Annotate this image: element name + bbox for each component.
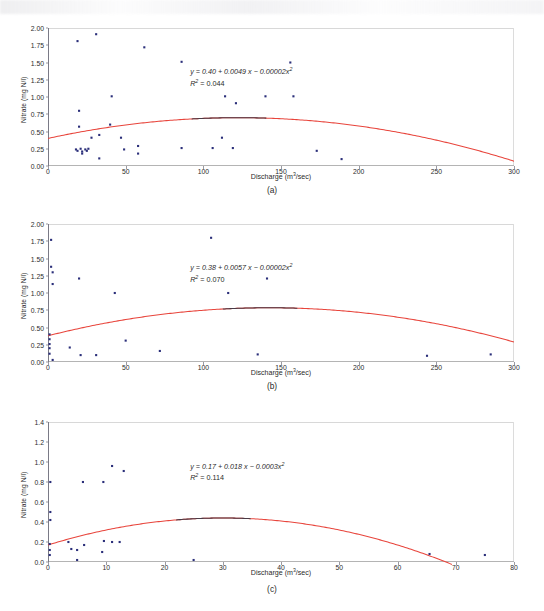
x-axis-label-a: Discharge (m3/sec) [48, 171, 514, 181]
y-tick-mark-c [46, 542, 49, 543]
regression-annotation-a: y = 0.40 + 0.0049 x − 0.00002x2R2 = 0.04… [190, 66, 292, 90]
data-point-c [111, 465, 113, 467]
r-squared-a: R2 = 0.044 [190, 78, 292, 90]
data-point-a [264, 95, 266, 97]
data-point-c [101, 551, 103, 553]
x-tick-mark-a [359, 166, 360, 169]
data-point-c [82, 481, 84, 483]
data-point-a [76, 150, 78, 152]
data-point-c [428, 553, 430, 555]
data-point-b [125, 340, 127, 342]
panel-caption-a: (a) [0, 185, 544, 195]
data-point-c [49, 554, 51, 556]
data-point-c [83, 544, 85, 546]
y-tick-mark-a [46, 114, 49, 115]
data-point-a [341, 158, 343, 160]
regression-annotation-c: y = 0.17 + 0.018 x − 0.0003x2R2 = 0.114 [190, 461, 284, 485]
data-point-a [212, 147, 214, 149]
data-point-a [111, 95, 113, 97]
data-point-c [76, 559, 78, 561]
data-point-b [50, 239, 52, 241]
data-point-c [49, 511, 51, 513]
data-point-c [49, 481, 51, 483]
regression-curve-a [48, 118, 514, 161]
data-point-a [90, 137, 92, 139]
data-point-a [123, 148, 125, 150]
data-layer-a [48, 28, 514, 166]
data-point-c [49, 519, 51, 521]
data-layer-c [48, 422, 514, 562]
data-point-a [80, 148, 82, 150]
regression-curve-c [48, 518, 452, 564]
data-point-a [181, 147, 183, 149]
y-tick-mark-a [46, 148, 49, 149]
y-tick-mark-b [46, 310, 49, 311]
x-tick-mark-c [456, 562, 457, 565]
r-squared-c: R2 = 0.114 [190, 472, 284, 484]
x-tick-mark-b [436, 362, 437, 365]
x-tick-mark-a [514, 166, 515, 169]
data-point-c [102, 481, 104, 483]
data-point-a [232, 147, 234, 149]
data-point-b [49, 338, 51, 340]
data-point-b [257, 353, 259, 355]
x-axis-label-b: Discharge (m3/sec) [48, 367, 514, 377]
data-point-c [49, 549, 51, 551]
data-point-a [235, 102, 237, 104]
plot-box-a: y = 0.40 + 0.0049 x − 0.00002x2R2 = 0.04… [48, 28, 514, 166]
y-tick-mark-c [46, 422, 49, 423]
regression-equation-a: y = 0.40 + 0.0049 x − 0.00002x2 [190, 66, 292, 78]
data-point-c [67, 541, 69, 543]
data-point-c [193, 559, 195, 561]
data-point-b [52, 283, 54, 285]
data-point-a [181, 61, 183, 63]
y-tick-mark-a [46, 45, 49, 46]
x-tick-mark-a [436, 166, 437, 169]
data-point-a [292, 95, 294, 97]
x-tick-mark-a [281, 166, 282, 169]
x-tick-mark-c [281, 562, 282, 565]
data-point-b [78, 277, 80, 279]
data-point-c [119, 541, 121, 543]
x-tick-mark-b [126, 362, 127, 365]
y-tick-mark-b [46, 241, 49, 242]
y-tick-mark-a [46, 79, 49, 80]
data-point-a [98, 157, 100, 159]
x-tick-mark-c [223, 562, 224, 565]
y-tick-mark-a [46, 131, 49, 132]
data-point-a [78, 110, 80, 112]
data-point-b [69, 346, 71, 348]
x-tick-mark-a [126, 166, 127, 169]
data-point-c [103, 540, 105, 542]
y-tick-mark-b [46, 224, 49, 225]
data-point-a [224, 95, 226, 97]
data-point-a [86, 150, 88, 152]
data-point-a [221, 137, 223, 139]
data-point-c [111, 541, 113, 543]
data-point-a [143, 46, 145, 48]
regression-equation-b: y = 0.38 + 0.0057 x − 0.00002x2 [190, 262, 292, 274]
data-point-a [120, 137, 122, 139]
data-point-a [87, 148, 89, 150]
data-point-b [49, 333, 51, 335]
data-point-b [49, 343, 51, 345]
y-tick-mark-a [46, 28, 49, 29]
x-tick-mark-b [48, 362, 49, 365]
data-point-a [76, 40, 78, 42]
x-tick-mark-c [165, 562, 166, 565]
x-tick-mark-a [48, 166, 49, 169]
panel-a: Nitrate (mg N/l) y = 0.40 + 0.0049 x − 0… [0, 14, 544, 210]
data-point-b [426, 355, 428, 357]
data-point-a [316, 150, 318, 152]
x-axis-label-c: Discharge (m3/sec) [48, 567, 514, 577]
r-squared-b: R2 = 0.070 [190, 274, 292, 286]
data-point-a [137, 153, 139, 155]
x-tick-mark-a [203, 166, 204, 169]
plot-box-b: y = 0.38 + 0.0057 x − 0.00002x2R2 = 0.07… [48, 224, 514, 362]
data-point-b [114, 292, 116, 294]
x-tick-mark-b [514, 362, 515, 365]
x-tick-mark-c [398, 562, 399, 565]
data-point-b [95, 354, 97, 356]
data-point-b [490, 353, 492, 355]
x-tick-mark-c [339, 562, 340, 565]
